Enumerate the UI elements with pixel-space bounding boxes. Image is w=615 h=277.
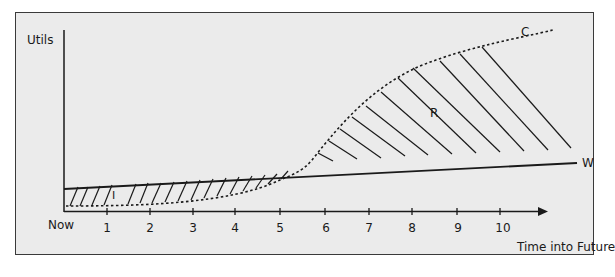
origin-label: Now	[48, 219, 74, 231]
region-r-hatching	[318, 47, 571, 161]
curve-c	[66, 30, 553, 206]
x-axis-label: Time into Future	[517, 241, 615, 253]
region-r-label: R	[430, 107, 438, 119]
curve-w	[64, 163, 577, 189]
tick-label: 5	[276, 222, 284, 234]
curve-c-label: C	[521, 26, 529, 38]
tick-label: 4	[231, 222, 239, 234]
tick-label: 9	[454, 222, 462, 234]
tick-label: 2	[146, 222, 154, 234]
region-i-label: I	[112, 190, 115, 201]
tick-label: 6	[322, 222, 330, 234]
tick-label: 1	[103, 222, 111, 234]
tick-label: 7	[365, 222, 373, 234]
x-axis-arrow-icon	[538, 207, 548, 216]
y-axis-label: Utils	[27, 34, 53, 46]
tick-label: 10	[495, 222, 510, 234]
curve-w-label: W	[582, 157, 594, 169]
tick-label: 3	[189, 222, 197, 234]
tick-label: 8	[408, 222, 416, 234]
